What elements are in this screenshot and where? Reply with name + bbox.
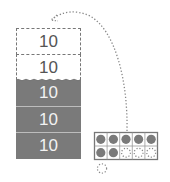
- diagram-graphics: [0, 0, 170, 182]
- regroup-arrow: [54, 12, 127, 131]
- counter: [121, 135, 130, 144]
- wavy-edge: [16, 79, 81, 81]
- counter: [96, 148, 105, 157]
- ten-frame: [95, 133, 158, 160]
- counter: [134, 135, 143, 144]
- counter: [147, 135, 156, 144]
- extra-empty-counter: [97, 164, 106, 173]
- regrouping-diagram: 10 10 10 10 10: [0, 0, 170, 182]
- counter: [109, 135, 118, 144]
- counter: [109, 148, 118, 157]
- counter: [96, 135, 105, 144]
